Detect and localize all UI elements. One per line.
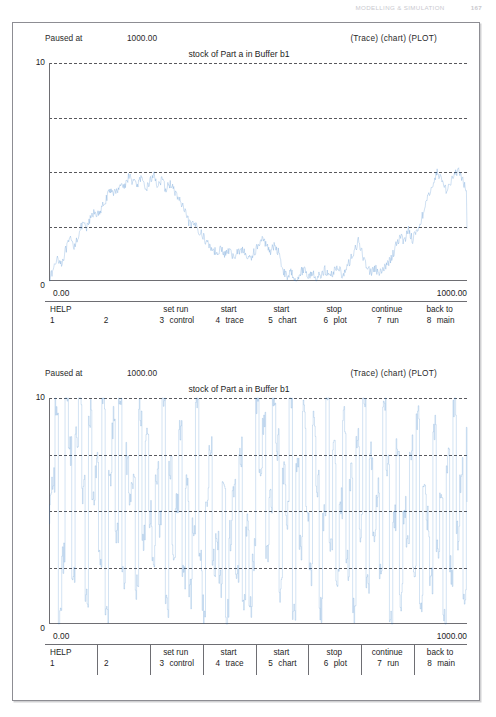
fkey-8-top-label: back to [414, 304, 467, 315]
trace-fkey-6-top-label: stop [309, 647, 361, 658]
chart-status-label: Paused at [45, 33, 82, 43]
chart-title: stock of Part a in Buffer b1 [13, 49, 481, 59]
trace-fkey-7-top-label: continue [362, 647, 414, 658]
fkey-4-top-label: start [203, 304, 256, 315]
fkey-5-top-label: start [256, 304, 309, 315]
fkey-1-number: 1 [50, 315, 56, 327]
trace-fkey-5-bottom-row: 5 chart [257, 658, 309, 670]
trace-x-axis-min-label: 0.00 [53, 631, 69, 641]
fkey-6-bottom-label: plot [334, 315, 347, 327]
running-head-title: MODELLING & SIMULATION [356, 4, 445, 11]
trace-fkey-7-continue-run[interactable]: continue 7 run [361, 645, 414, 675]
fkey-3-set-run-control[interactable]: set run 3 control [151, 302, 204, 332]
fkey-6-bottom-row: 6 plot [309, 315, 362, 327]
trace-fkey-7-bottom-label: run [387, 658, 399, 670]
fkey-7-top-label: continue [362, 304, 415, 315]
fkey-2-bottom-row: 2 [98, 315, 151, 327]
fkey-1-help[interactable]: HELP 1 [45, 302, 98, 332]
trace-fkey-7-bottom-row: 7 run [362, 658, 414, 670]
fkey-4-number: 4 [216, 315, 222, 327]
fkey-2-number: 2 [104, 315, 110, 327]
fkey-6-stop-plot[interactable]: stop 6 plot [309, 302, 362, 332]
running-head-page-number: 167 [471, 4, 482, 11]
fkey-8-bottom-label: main [437, 315, 455, 327]
trace-fkey-8-number: 8 [427, 658, 433, 670]
trace-fkey-8-bottom-row: 8 main [415, 658, 467, 670]
chart-status-value: 1000.00 [127, 33, 157, 43]
fkey-2-blank[interactable]: 2 [98, 302, 151, 332]
fkey-1-top-label: HELP [45, 304, 98, 315]
trace-fkey-2-number: 2 [104, 658, 110, 670]
trace-fkey-6-number: 6 [324, 658, 330, 670]
trace-fkey-3-set-run-control[interactable]: set run 3 control [150, 645, 203, 675]
trace-x-axis-labels: 0.00 1000.00 [49, 631, 467, 641]
trace-fkey-2-blank[interactable]: 2 [97, 645, 150, 675]
trace-panel: Paused at 1000.00 (Trace) (chart) (PLOT)… [13, 366, 481, 696]
trace-fkey-5-start-chart[interactable]: start 5 chart [256, 645, 309, 675]
trace-fkey-3-bottom-row: 3 control [151, 658, 203, 670]
chart-panel-header: Paused at 1000.00 (Trace) (chart) (PLOT) [13, 31, 481, 47]
running-head: MODELLING & SIMULATION 167 [0, 1, 496, 13]
fkey-8-bottom-row: 8 main [414, 315, 467, 327]
fkey-8-number: 8 [427, 315, 433, 327]
trace-fkey-3-top-label: set run [151, 647, 203, 658]
trace-function-key-bar: HELP 1 2 set run 3 control [45, 644, 467, 675]
fkey-6-top-label: stop [309, 304, 362, 315]
chart-trace-line [49, 63, 467, 281]
trace-fkey-1-help[interactable]: HELP 1 [45, 645, 97, 675]
chart-plot-area [49, 63, 467, 281]
fkey-5-bottom-row: 5 chart [256, 315, 309, 327]
fkey-5-bottom-label: chart [278, 315, 296, 327]
chart-plot-wrap: 10 0 0.00 1000.00 [13, 61, 481, 285]
trace-fkey-1-number: 1 [50, 658, 56, 670]
trace-status-label: Paused at [45, 368, 82, 378]
trace-y-axis-max-label: 10 [23, 392, 45, 402]
fkey-7-continue-run[interactable]: continue 7 run [362, 302, 415, 332]
chart-y-axis-min-label: 0 [23, 280, 45, 290]
trace-status-value: 1000.00 [127, 368, 157, 378]
trace-fkey-2-top-label [98, 647, 150, 658]
trace-y-axis-min-label: 0 [23, 623, 45, 633]
trace-fkey-5-bottom-label: chart [278, 658, 296, 670]
trace-fkey-5-number: 5 [268, 658, 274, 670]
trace-fkey-1-bottom-row: 1 [45, 658, 97, 670]
fkey-7-bottom-label: run [387, 315, 399, 327]
fkey-3-bottom-label: control [170, 315, 195, 327]
trace-step-line [49, 398, 467, 624]
fkey-3-bottom-row: 3 control [151, 315, 204, 327]
trace-fkey-8-top-label: back to [415, 647, 467, 658]
fkey-4-start-trace[interactable]: start 4 trace [203, 302, 256, 332]
fkey-7-bottom-row: 7 run [362, 315, 415, 327]
trace-fkey-4-top-label: start [204, 647, 256, 658]
fkey-4-bottom-label: trace [226, 315, 244, 327]
trace-fkey-8-bottom-label: main [437, 658, 455, 670]
chart-function-key-bar: HELP 1 2 set run 3 control [45, 301, 467, 332]
trace-fkey-5-top-label: start [257, 647, 309, 658]
trace-fkey-4-start-trace[interactable]: start 4 trace [203, 645, 256, 675]
trace-fkey-6-bottom-label: plot [334, 658, 347, 670]
fkey-3-number: 3 [160, 315, 166, 327]
chart-panel: Paused at 1000.00 (Trace) (chart) (PLOT)… [13, 31, 481, 351]
chart-y-axis-max-label: 10 [23, 57, 45, 67]
fkey-2-top-label [98, 304, 151, 315]
trace-fkey-4-bottom-row: 4 trace [204, 658, 256, 670]
trace-fkey-1-top-label: HELP [45, 647, 97, 658]
fkey-8-back-to-main[interactable]: back to 8 main [414, 302, 467, 332]
chart-mode-tags: (Trace) (chart) (PLOT) [350, 33, 437, 43]
trace-fkey-7-number: 7 [377, 658, 383, 670]
fkey-5-start-chart[interactable]: start 5 chart [256, 302, 309, 332]
trace-fkey-6-stop-plot[interactable]: stop 6 plot [308, 645, 361, 675]
trace-fkey-4-bottom-label: trace [225, 658, 243, 670]
fkey-4-bottom-row: 4 trace [203, 315, 256, 327]
trace-panel-header: Paused at 1000.00 (Trace) (chart) (PLOT) [13, 366, 481, 382]
trace-x-axis-max-label: 1000.00 [437, 631, 467, 641]
trace-mode-tags: (Trace) (chart) (PLOT) [350, 368, 437, 378]
trace-fkey-4-number: 4 [215, 658, 221, 670]
trace-fkey-2-bottom-row: 2 [98, 658, 150, 670]
trace-fkey-8-back-to-main[interactable]: back to 8 main [414, 645, 467, 675]
trace-fkey-6-bottom-row: 6 plot [309, 658, 361, 670]
fkey-5-number: 5 [268, 315, 274, 327]
trace-plot-wrap: 10 0 0.00 1000.00 [13, 396, 481, 628]
chart-x-axis-max-label: 1000.00 [437, 288, 467, 298]
fkey-1-bottom-row: 1 [45, 315, 98, 327]
